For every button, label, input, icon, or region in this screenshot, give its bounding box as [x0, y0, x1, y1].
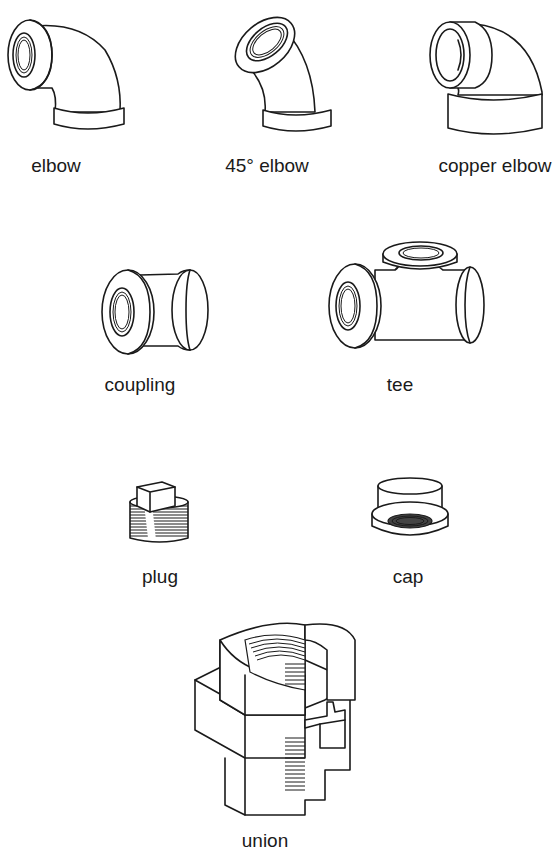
tee-label: tee — [387, 374, 413, 396]
coupling-figure — [100, 262, 210, 362]
union-drawing — [185, 620, 385, 820]
elbow-figure — [0, 0, 130, 140]
elbow-45-figure — [185, 0, 335, 140]
elbow-45-label: 45° elbow — [225, 155, 309, 177]
coupling-drawing — [100, 262, 210, 362]
union-label: union — [242, 830, 289, 847]
tee-figure — [325, 240, 490, 360]
plug-label: plug — [142, 566, 178, 588]
plug-drawing — [128, 478, 193, 548]
plug-figure — [128, 478, 193, 548]
elbow-45-drawing — [185, 0, 335, 140]
copper-elbow-figure — [420, 0, 555, 140]
cap-figure — [370, 474, 450, 544]
copper-elbow-label: copper elbow — [438, 155, 551, 177]
elbow-drawing — [0, 0, 130, 140]
tee-drawing — [325, 240, 490, 360]
copper-elbow-drawing — [420, 0, 555, 140]
cap-drawing — [370, 474, 450, 544]
cap-label: cap — [393, 566, 424, 588]
elbow-label: elbow — [31, 155, 81, 177]
union-figure — [185, 620, 385, 820]
coupling-label: coupling — [105, 374, 176, 396]
